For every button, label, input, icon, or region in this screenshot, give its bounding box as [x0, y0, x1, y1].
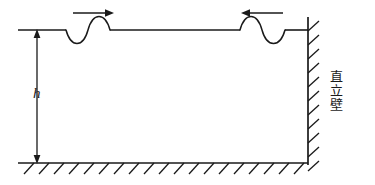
depth-label: h [33, 86, 41, 101]
reflected-direction-arrow-icon [241, 9, 283, 17]
vertical-wall-label: 直 立 壁 [325, 70, 347, 112]
reflected-wave-profile [240, 17, 285, 44]
vertical-wall-hatching [308, 21, 319, 171]
vertical-wall-label-char-3: 壁 [325, 98, 347, 112]
wave-wall-diagram: h 直 立 壁 [0, 0, 375, 185]
vertical-wall-label-char-1: 直 [325, 70, 347, 84]
vertical-wall-label-char-2: 立 [325, 84, 347, 98]
seabed-hatching [24, 163, 304, 174]
diagram-canvas [0, 0, 375, 185]
incident-direction-arrow-icon [73, 9, 114, 17]
incident-wave-profile [66, 17, 110, 44]
